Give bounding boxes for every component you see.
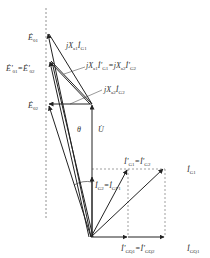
label-jXa1IG1: jXa1İG1 — [65, 41, 87, 51]
label-IG1: İG1 — [186, 165, 196, 175]
label-E01p-E02p: Ė'01=Ė'02 — [5, 64, 35, 74]
label-theta: θ — [77, 125, 81, 134]
label-IGQ1: İGQ1 — [186, 244, 200, 254]
label-E02: Ė02 — [27, 101, 38, 111]
phasor-IG1 — [91, 169, 163, 237]
label-jXa1IpG1-eq: jXa1İ'G1=jXa2İ'G2 — [85, 61, 137, 71]
phasor-E01-prime — [50, 62, 89, 237]
label-IpG1-IpG2: İ'G1=İ'G2 — [123, 157, 151, 167]
label-jXa2IG2: jXa2İG2 — [103, 85, 125, 95]
phasor-diagram: Ė01 Ė'01=Ė'02 jXa1İG1 jXa1İ'G1=jXa2İ'G2 … — [0, 0, 210, 258]
leader-jXa2IG2 — [70, 90, 102, 104]
label-U: U̇ — [98, 125, 105, 134]
phasor-E02-prime — [52, 62, 93, 237]
leader-jXa1IpG1 — [64, 67, 85, 74]
label-IG2-IGP1: İG2=İGP1 — [94, 181, 121, 191]
label-IpGQ1-IpGQ2: İ'GQ1=İ'GQ2 — [120, 244, 155, 254]
label-E01: Ė01 — [27, 33, 38, 43]
